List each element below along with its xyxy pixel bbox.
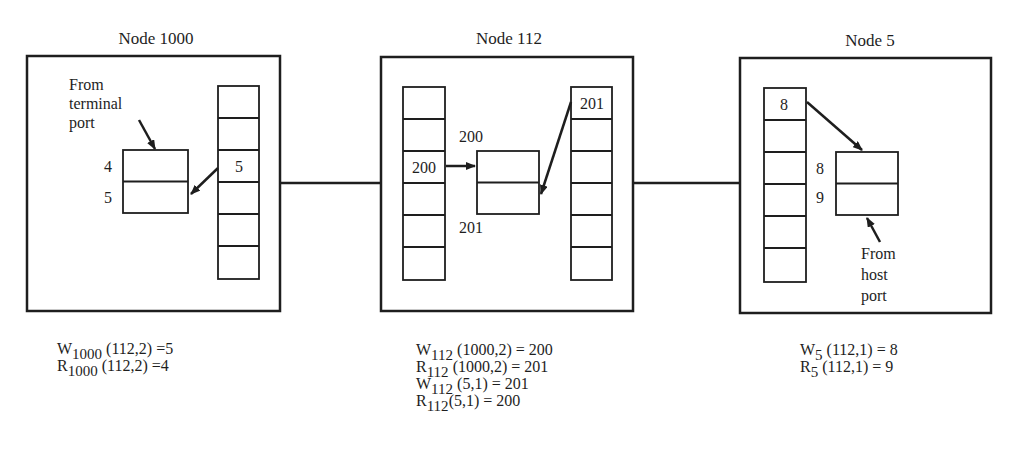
buffer-column-right [571, 87, 612, 280]
column-cell-value: 8 [780, 96, 788, 113]
annotation-line: host [861, 266, 888, 283]
formulas-node-1000: W1000 (112,2) =5 R1000 (112,2) =4 [57, 340, 173, 374]
column-cell-value: 200 [412, 159, 436, 176]
pair-label: 4 [104, 158, 112, 175]
arrow-right-to-pair [541, 102, 571, 194]
formula: W1000 (112,2) =5 [57, 340, 173, 357]
annotation-line: From [69, 76, 104, 93]
pair-label: 201 [459, 219, 483, 236]
pair-box [123, 150, 188, 213]
arrow-from-host [867, 218, 880, 242]
formula: R1000 (112,2) =4 [57, 357, 173, 374]
buffer-column-left [403, 87, 445, 280]
formula: W112 (1000,2) = 200 [416, 341, 553, 358]
formulas-node-5: W5 (112,1) = 8 R5 (112,1) = 9 [800, 341, 898, 375]
pair-box [477, 151, 539, 214]
node-112: Node 112 200 200 201 201 [381, 29, 633, 311]
buffer-column [764, 88, 806, 282]
arrow-from-terminal [139, 120, 155, 149]
formulas-node-112: W112 (1000,2) = 200 R112 (1000,2) = 201 … [416, 341, 553, 409]
annotation-line: port [861, 287, 887, 305]
node-box [27, 56, 280, 311]
pair-label: 5 [104, 189, 112, 206]
annotation-line: port [69, 114, 95, 132]
formula: R112 (1000,2) = 201 [416, 358, 553, 375]
node-5: Node 5 8 8 9 From host port [740, 31, 991, 313]
column-cell-value: 201 [580, 95, 604, 112]
pair-label: 9 [816, 189, 824, 206]
annotation-line: From [861, 245, 896, 262]
column-cell-value: 5 [235, 158, 243, 175]
formula: R5 (112,1) = 9 [800, 358, 898, 375]
buffer-column [218, 86, 259, 279]
node-1000: Node 1000 From terminal port 4 5 5 [27, 29, 280, 311]
formula: R112(5,1) = 200 [416, 392, 553, 409]
formula: W112 (5,1) = 201 [416, 375, 553, 392]
annotation-line: terminal [69, 95, 123, 112]
pair-label: 200 [459, 128, 483, 145]
arrow-column-to-pair [807, 102, 862, 150]
formula: W5 (112,1) = 8 [800, 341, 898, 358]
node-title: Node 112 [476, 29, 542, 48]
pair-box [836, 152, 898, 215]
node-title: Node 1000 [118, 29, 193, 48]
pair-label: 8 [816, 160, 824, 177]
arrow-column-to-pair [191, 168, 218, 194]
node-title: Node 5 [845, 31, 895, 50]
